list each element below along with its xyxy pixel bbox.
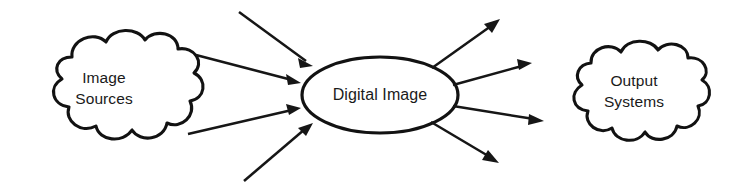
outgoing-arrow-4[interactable] xyxy=(431,122,499,163)
outgoing-arrow-2-head xyxy=(517,59,532,70)
incoming-arrow-4[interactable] xyxy=(244,123,313,181)
node-output-systems[interactable]: Output Systems xyxy=(574,41,710,140)
outgoing-arrow-2[interactable] xyxy=(453,59,532,85)
outgoing-arrow-1-head xyxy=(484,19,500,33)
cloud-left-label-line2: Sources xyxy=(75,90,133,107)
node-image-sources[interactable]: Image Sources xyxy=(54,30,204,139)
cloud-shape-left xyxy=(54,30,204,139)
outgoing-arrow-2-line xyxy=(453,66,522,85)
outgoing-arrow-1[interactable] xyxy=(432,19,500,68)
incoming-arrow-4-line xyxy=(244,129,305,181)
cloud-right-label-line1: Output xyxy=(610,72,658,89)
diagram-svg: Image Sources Di xyxy=(0,0,735,183)
incoming-arrow-3[interactable] xyxy=(188,104,301,134)
outgoing-arrow-3[interactable] xyxy=(453,106,544,125)
outgoing-arrow-1-line xyxy=(432,26,491,68)
incoming-arrow-2-head xyxy=(286,74,301,85)
cloud-shape-right xyxy=(574,41,710,140)
incoming-arrow-2[interactable] xyxy=(196,55,301,85)
incoming-arrow-3-head xyxy=(286,104,301,115)
ellipse-center-label: Digital Image xyxy=(333,86,428,103)
node-digital-image[interactable]: Digital Image xyxy=(302,57,458,133)
outgoing-arrow-3-head xyxy=(528,114,544,125)
incoming-arrow-1-line xyxy=(239,12,306,61)
cloud-right-label-line2: Systems xyxy=(604,93,664,110)
incoming-arrow-2-line xyxy=(196,55,292,80)
incoming-arrows-group xyxy=(188,12,313,181)
incoming-arrow-1[interactable] xyxy=(239,12,313,68)
incoming-arrow-3-line xyxy=(188,110,292,134)
outgoing-arrow-3-line xyxy=(453,106,534,119)
outgoing-arrow-4-head xyxy=(482,150,499,163)
diagram-canvas: Image Sources Di xyxy=(0,0,735,183)
outgoing-arrow-4-line xyxy=(431,122,490,157)
cloud-left-label-line1: Image xyxy=(82,69,126,86)
